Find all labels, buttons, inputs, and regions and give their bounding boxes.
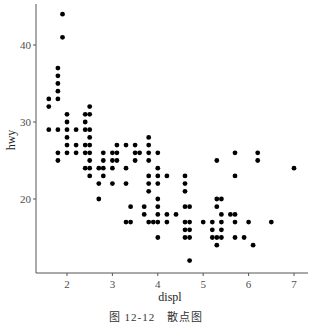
data-point <box>101 166 106 171</box>
data-point <box>56 158 61 163</box>
data-point <box>228 212 233 217</box>
data-point <box>56 127 61 132</box>
data-point <box>124 220 129 225</box>
data-point <box>146 220 151 225</box>
y-tick-label: 40 <box>20 39 32 51</box>
data-point <box>201 220 206 225</box>
data-point <box>155 220 160 225</box>
data-point <box>96 181 101 186</box>
data-point <box>155 174 160 179</box>
data-point <box>255 150 260 155</box>
data-point <box>115 158 120 163</box>
data-point <box>210 220 215 225</box>
data-point <box>165 212 170 217</box>
data-point <box>87 150 92 155</box>
data-point <box>133 143 138 148</box>
data-point <box>65 120 70 125</box>
data-point <box>219 220 224 225</box>
data-point <box>83 120 88 125</box>
data-point <box>56 97 61 102</box>
data-point <box>115 150 120 155</box>
data-point <box>56 81 61 86</box>
data-point <box>56 89 61 94</box>
data-point <box>60 12 65 17</box>
data-points <box>46 12 296 263</box>
data-point <box>146 174 151 179</box>
data-point <box>214 197 219 202</box>
data-point <box>214 204 219 209</box>
data-point <box>56 66 61 71</box>
data-point <box>87 174 92 179</box>
data-point <box>251 243 256 248</box>
data-point <box>214 243 219 248</box>
data-point <box>110 158 115 163</box>
data-point <box>165 220 170 225</box>
data-point <box>60 35 65 40</box>
data-point <box>183 189 188 194</box>
data-point <box>56 150 61 155</box>
data-point <box>155 235 160 240</box>
figure-caption: 图 12-12 散点图 <box>0 308 312 324</box>
data-point <box>83 150 88 155</box>
data-point <box>183 181 188 186</box>
y-tick-label: 20 <box>20 193 32 205</box>
data-point <box>65 112 70 117</box>
data-point <box>219 235 224 240</box>
data-point <box>115 143 120 148</box>
x-tick-label: 7 <box>291 278 297 290</box>
x-axis-title: displ <box>158 290 182 304</box>
data-point <box>155 150 160 155</box>
x-tick-label: 3 <box>110 278 116 290</box>
data-point <box>101 150 106 155</box>
data-point <box>124 181 129 186</box>
data-point <box>137 150 142 155</box>
data-point <box>65 143 70 148</box>
x-tick-label: 2 <box>64 278 70 290</box>
y-tick-label: 30 <box>20 116 32 128</box>
data-point <box>151 220 156 225</box>
data-point <box>133 150 138 155</box>
data-point <box>124 166 129 171</box>
data-point <box>146 143 151 148</box>
data-point <box>146 135 151 140</box>
x-axis-ticks: 234567 <box>64 273 297 290</box>
data-point <box>83 143 88 148</box>
data-point <box>187 258 192 263</box>
data-point <box>74 143 79 148</box>
data-point <box>214 235 219 240</box>
y-axis-ticks: 203040 <box>20 39 36 205</box>
data-point <box>128 220 133 225</box>
data-point <box>142 204 147 209</box>
data-point <box>65 150 70 155</box>
data-point <box>233 235 238 240</box>
data-point <box>110 181 115 186</box>
data-point <box>292 166 297 171</box>
data-point <box>183 174 188 179</box>
data-point <box>146 150 151 155</box>
data-point <box>110 166 115 171</box>
data-point <box>83 127 88 132</box>
data-point <box>142 212 147 217</box>
data-point <box>146 189 151 194</box>
data-point <box>155 166 160 171</box>
data-point <box>233 220 238 225</box>
data-point <box>87 143 92 148</box>
data-point <box>46 127 51 132</box>
data-point <box>214 158 219 163</box>
data-point <box>46 97 51 102</box>
data-point <box>87 104 92 109</box>
data-point <box>165 174 170 179</box>
y-axis-title: hwy <box>4 130 18 151</box>
data-point <box>219 212 224 217</box>
data-point <box>233 150 238 155</box>
data-point <box>187 204 192 209</box>
data-point <box>233 212 238 217</box>
data-point <box>246 220 251 225</box>
data-point <box>65 127 70 132</box>
data-point <box>183 227 188 232</box>
data-point <box>74 150 79 155</box>
data-point <box>155 197 160 202</box>
data-point <box>187 220 192 225</box>
data-point <box>87 112 92 117</box>
